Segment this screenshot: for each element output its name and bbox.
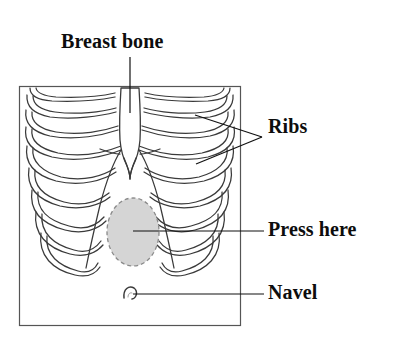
navel-inner [128,293,132,297]
label-navel: Navel [268,282,317,302]
rib-right-1b [145,88,224,97]
label-breast-bone: Breast bone [61,31,163,51]
rib-right-6b [151,170,225,204]
label-ribs: Ribs [268,116,307,136]
navel-mark [124,287,137,299]
press-here-target[interactable] [107,198,159,266]
anatomy-figure [0,0,395,341]
rib-right-5b [145,148,227,179]
rib-left-6b [35,170,109,204]
leader-ribs-lower [196,137,262,164]
diagram-page: Breast bone Ribs Press here Navel [0,0,395,341]
rib-left-1b [36,88,115,97]
rib-left-5b [33,148,115,179]
label-press-here: Press here [268,219,357,239]
